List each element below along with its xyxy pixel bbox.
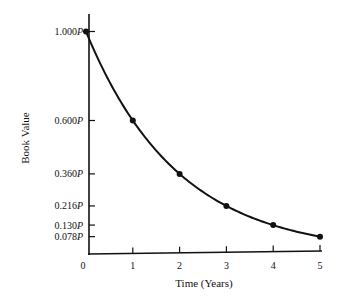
x-tick-label: 5 [318,260,323,271]
data-point [317,234,323,240]
y-tick-label: 0.600P [54,115,83,126]
data-point [270,222,276,228]
y-tick-label: 0.078P [54,231,83,242]
x-tick-label: 1 [130,260,135,271]
chart: 1.000P0.600P0.360P0.216P0.130P0.078P0123… [0,0,346,304]
y-tick-label: 1.000P [54,26,83,37]
x-tick-label: 2 [177,260,182,271]
x-axis-title: Time (Years) [175,277,233,290]
data-point [130,118,136,124]
book-value-curve [86,32,320,237]
y-tick-label: 0.216P [54,200,83,211]
y-tick-label: 0.360P [54,168,83,179]
y-tick-label: 0.130P [54,220,83,231]
data-point [83,29,89,35]
x-tick-label: 4 [271,260,276,271]
y-axis-title: Book Value [19,112,31,164]
plot-area: 1.000P0.600P0.360P0.216P0.130P0.078P0123… [54,14,323,271]
data-point [223,203,229,209]
x-tick-label: 0 [81,260,86,271]
x-tick-label: 3 [224,260,229,271]
data-point [177,171,183,177]
x-axis [88,251,322,254]
